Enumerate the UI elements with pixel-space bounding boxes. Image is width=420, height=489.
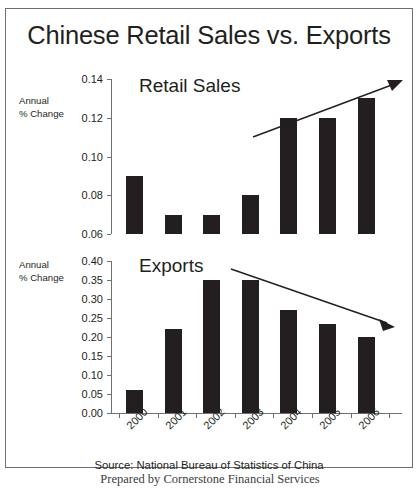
y-axis-tick-label: 0.12: [67, 112, 103, 124]
y-axis-tick-label: 0.08: [67, 189, 103, 201]
retail-axis-caption: Annual % Change: [19, 95, 64, 120]
y-axis-tick-label: 0.10: [67, 369, 103, 381]
y-axis-tick: [107, 261, 111, 262]
y-axis-tick: [107, 318, 111, 319]
bar: [165, 215, 182, 234]
y-axis-tick: [107, 337, 111, 338]
x-axis-tick: [389, 414, 390, 418]
chart-frame: Chinese Retail Sales vs. Exports Annual …: [5, 8, 413, 468]
footer-note: Prepared by Cornerstone Financial Servic…: [0, 472, 420, 487]
y-axis-tick: [107, 356, 111, 357]
y-axis-tick-label: 0.30: [67, 293, 103, 305]
y-axis-tick: [107, 118, 111, 119]
exports-panel-label: Exports: [139, 255, 203, 277]
y-axis-tick-label: 0.06: [67, 228, 103, 240]
y-axis-tick-label: 0.10: [67, 151, 103, 163]
y-axis-tick-label: 0.40: [67, 255, 103, 267]
x-axis-tick: [351, 414, 352, 418]
retail-axis-caption-line1: Annual: [19, 95, 64, 108]
page-title: Chinese Retail Sales vs. Exports: [6, 21, 412, 50]
retail-sales-chart: 0.060.080.100.120.14 Retail Sales: [111, 79, 406, 234]
y-axis-tick: [107, 299, 111, 300]
x-axis-tick: [235, 414, 236, 418]
x-axis-tick: [273, 414, 274, 418]
exports-axis-caption-line2: % Change: [19, 272, 64, 285]
source-note: Source: National Bureau of Statistics of…: [6, 459, 412, 471]
y-axis-tick-label: 0.05: [67, 388, 103, 400]
y-axis-tick-label: 0.35: [67, 274, 103, 286]
y-axis-tick: [107, 375, 111, 376]
y-axis-tick-label: 0.20: [67, 331, 103, 343]
y-axis-tick: [107, 234, 111, 235]
retail-axis-caption-line2: % Change: [19, 108, 64, 121]
x-axis-tick: [196, 414, 197, 418]
exports-chart: 0.000.050.100.150.200.250.300.350.40 Exp…: [111, 261, 406, 413]
bar: [165, 329, 182, 413]
retail-panel-label: Retail Sales: [139, 75, 240, 97]
y-axis-tick: [107, 195, 111, 196]
y-axis-tick-label: 0.00: [67, 407, 103, 419]
y-axis-line: [111, 79, 112, 234]
x-axis-tick: [119, 414, 120, 418]
y-axis-tick-label: 0.15: [67, 350, 103, 362]
bar: [203, 280, 220, 413]
y-axis-line: [111, 261, 112, 413]
bar: [358, 337, 375, 413]
y-axis-tick-label: 0.25: [67, 312, 103, 324]
y-axis-tick: [107, 79, 111, 80]
exports-axis-caption: Annual % Change: [19, 259, 64, 284]
bar: [126, 176, 143, 234]
exports-trend-arrow-icon: [229, 261, 404, 341]
x-axis-tick: [312, 414, 313, 418]
exports-axis-caption-line1: Annual: [19, 259, 64, 272]
retail-trend-arrow-icon: [251, 73, 411, 143]
y-axis-tick-label: 0.14: [67, 73, 103, 85]
y-axis-tick: [107, 157, 111, 158]
y-axis-tick: [107, 394, 111, 395]
y-axis-tick: [107, 280, 111, 281]
bar: [203, 215, 220, 234]
bar: [242, 195, 259, 234]
x-axis-tick: [158, 414, 159, 418]
